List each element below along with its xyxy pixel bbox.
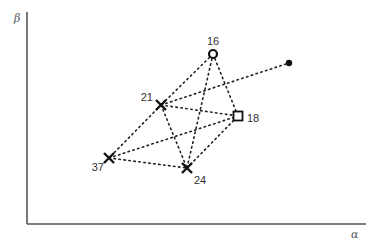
y-axis-label: β — [13, 12, 20, 25]
x-axis-label: α — [351, 228, 359, 241]
edge-16-18 — [213, 54, 238, 116]
edge-21-24 — [161, 105, 187, 168]
edge-24-18 — [187, 116, 238, 168]
axes: β α — [13, 12, 366, 241]
node-label: 37 — [92, 161, 104, 173]
node-label: 24 — [194, 174, 206, 186]
node-24: 24 — [182, 163, 206, 186]
edge-16-21 — [161, 54, 213, 105]
cross-marker-icon — [156, 100, 166, 110]
square-marker-icon — [234, 112, 243, 121]
edge-21-target — [161, 63, 289, 105]
node-37: 37 — [92, 153, 114, 173]
nodes: 1621183724 — [92, 35, 292, 186]
node-16: 16 — [207, 35, 219, 58]
dot-marker-icon — [286, 60, 292, 66]
circle-marker-icon — [209, 50, 217, 58]
node-target — [286, 60, 292, 66]
node-18: 18 — [234, 112, 260, 125]
node-label: 21 — [141, 91, 153, 103]
node-label: 16 — [207, 35, 219, 47]
node-21: 21 — [141, 91, 166, 110]
cross-marker-icon — [104, 153, 114, 163]
edge-37-24 — [109, 158, 187, 168]
edge-37-18 — [109, 116, 238, 158]
node-label: 18 — [247, 112, 259, 124]
diagram-canvas: β α 1621183724 — [0, 0, 379, 244]
edges — [109, 54, 289, 168]
edge-21-37 — [109, 105, 161, 158]
